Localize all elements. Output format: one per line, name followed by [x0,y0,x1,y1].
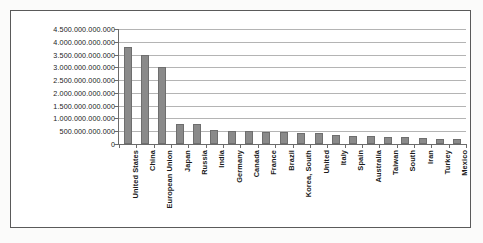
bar [245,131,253,144]
y-axis-tick-label: 3.500.000.000.000 [53,50,115,59]
x-axis-tick-mark [119,144,120,148]
x-axis-tick-mark [154,144,155,148]
chart-border-frame: 0500.000.000.0001.000.000.000.0001.500.0… [10,10,471,228]
bar [367,136,375,144]
bar [158,67,166,144]
y-axis-tick-label: 3.000.000.000.000 [53,63,115,72]
x-axis-category-label: Canada [252,150,261,177]
bar [436,139,444,144]
gridline [119,131,466,132]
x-axis-category-label: Russia [200,150,209,175]
x-axis-category-label: Spain [356,150,365,171]
gridline [119,118,466,119]
x-axis-tick-mark [258,144,259,148]
bar [453,139,461,144]
x-axis-tick-mark [379,144,380,148]
x-axis-category-label: European Union [165,150,174,208]
x-axis-tick-mark [362,144,363,148]
x-axis-category-label: United States [131,150,140,199]
x-axis-category-label: India [217,150,226,168]
x-axis-category-label: China [148,150,157,171]
x-axis-category-label: South [408,150,417,171]
bar [297,133,305,145]
y-axis-tick-label: 4.500.000.000.000 [53,25,115,34]
x-axis-tick-mark [327,144,328,148]
x-axis-tick-mark [171,144,172,148]
bar [210,130,218,144]
x-axis-category-label: Australia [374,150,383,183]
bar [419,138,427,144]
gridline [119,29,466,30]
bar [349,136,357,144]
x-axis-category-label: France [269,150,278,175]
x-axis-tick-mark [223,144,224,148]
bar [332,135,340,144]
plot-area [119,29,466,144]
bar [384,137,392,144]
bar [228,131,236,144]
x-axis-category-label: Brazil [287,150,296,171]
x-axis-category-label: Taiwan [391,150,400,175]
y-axis-tick-labels: 0500.000.000.0001.000.000.000.0001.500.0… [23,29,115,144]
x-axis-category-label: United [322,150,331,174]
x-axis-category-label: Iran [426,150,435,164]
bar [141,55,149,144]
y-axis-tick-label: 4.000.000.000.000 [53,37,115,46]
x-axis-category-label: Turkey [443,150,452,174]
x-axis-tick-mark [293,144,294,148]
y-axis-tick-label: 500.000.000.000 [60,127,115,136]
gridline [119,42,466,43]
x-axis-tick-mark [136,144,137,148]
x-axis-tick-mark [275,144,276,148]
x-axis-category-label: Mexico [460,150,469,176]
x-axis-tick-mark [206,144,207,148]
gridline [119,80,466,81]
bar [124,47,132,144]
gridline [119,106,466,107]
x-axis-tick-mark [188,144,189,148]
chart-figure: 0500.000.000.0001.000.000.000.0001.500.0… [0,0,483,243]
bar [280,132,288,144]
gridline [119,93,466,94]
y-axis-tick-label: 1.000.000.000.000 [53,114,115,123]
bar [176,124,184,144]
x-axis-category-labels: United StatesChinaEuropean UnionJapanRus… [119,150,466,238]
x-axis-tick-mark [466,144,467,148]
x-axis-category-label: Japan [183,150,192,172]
x-axis-category-label: Germany [235,150,244,183]
y-axis-tick-label: 2.000.000.000.000 [53,88,115,97]
bar [193,124,201,144]
x-axis-category-label: Italy [339,150,348,165]
x-axis-tick-mark [345,144,346,148]
x-axis-tick-mark [449,144,450,148]
x-axis-tick-mark [397,144,398,148]
x-axis-category-label: Korea, South [304,150,313,197]
x-axis-tick-mark [414,144,415,148]
bar [262,132,270,144]
bar [401,137,409,144]
bar [315,133,323,144]
x-axis-tick-mark [431,144,432,148]
y-axis-tick-label: 2.500.000.000.000 [53,76,115,85]
gridline [119,55,466,56]
y-axis-tick-label: 1.500.000.000.000 [53,101,115,110]
x-axis-tick-mark [310,144,311,148]
gridline [119,67,466,68]
x-axis-tick-mark [240,144,241,148]
